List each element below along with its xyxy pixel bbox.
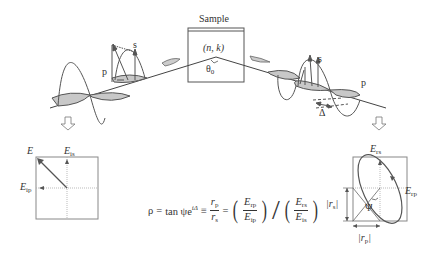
ellipsometry-formula: ρ = tan ψeiΔ ≡ rp rs = ( Erp Eip ) / ( E… xyxy=(148,196,320,224)
ers-over-eis: Ers Eis xyxy=(294,196,307,224)
reflected-p-label: p xyxy=(361,78,366,88)
reflected-wave xyxy=(268,55,360,116)
rs-magnitude-label: |rs| xyxy=(326,199,338,211)
tan-psi-term: tan ψeiΔ xyxy=(165,204,198,217)
psi-label: Ψ xyxy=(365,203,372,213)
reflected-s-label: s xyxy=(318,54,322,64)
rp-over-rs: rp rs xyxy=(210,196,220,224)
rho-symbol: ρ xyxy=(148,205,153,216)
reflected-polarization-box xyxy=(343,148,411,229)
sample-material: (n, k) xyxy=(203,43,224,53)
incident-s-label: s xyxy=(133,40,137,50)
sample-title: Sample xyxy=(199,14,229,24)
down-arrow-icon xyxy=(61,117,386,130)
erp-over-eip: Erp Eip xyxy=(243,196,257,224)
sample-block xyxy=(188,28,244,82)
eip-label: Eip xyxy=(20,182,32,194)
incident-wave xyxy=(52,44,147,124)
incident-polarization-box xyxy=(36,157,98,219)
e-vector-label: E xyxy=(27,146,33,156)
sample-angle: θ0 xyxy=(206,64,214,76)
rp-magnitude-label: |rp| xyxy=(358,233,371,245)
erp-label: Erp xyxy=(405,186,417,198)
incident-p-label: p xyxy=(102,67,107,77)
phase-delta-label: Δ xyxy=(319,108,325,118)
ers-label: Ers xyxy=(370,144,381,156)
eis-label: Eis xyxy=(64,146,75,158)
